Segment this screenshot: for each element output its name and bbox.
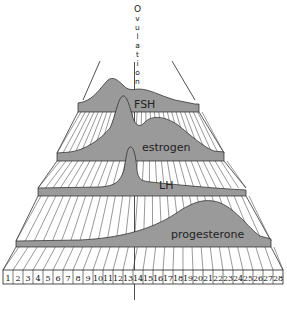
svg-text:19: 19 (183, 274, 193, 283)
svg-text:l: l (136, 32, 138, 41)
svg-text:i: i (136, 59, 138, 68)
svg-text:15: 15 (143, 274, 153, 283)
svg-text:20: 20 (193, 274, 203, 283)
fsh-label: FSH (134, 98, 155, 111)
lh-label: LH (159, 179, 173, 192)
svg-text:v: v (135, 14, 140, 23)
svg-text:12: 12 (113, 274, 123, 283)
svg-text:5: 5 (45, 274, 50, 283)
svg-text:u: u (135, 23, 140, 32)
svg-text:6: 6 (55, 274, 60, 283)
svg-text:1: 1 (5, 274, 10, 283)
svg-text:25: 25 (243, 274, 253, 283)
svg-text:18: 18 (173, 274, 183, 283)
svg-text:11: 11 (103, 274, 113, 283)
svg-text:23: 23 (223, 274, 233, 283)
svg-text:17: 17 (163, 274, 173, 283)
menstrual-cycle-hormone-diagram: FSH estrogen LH progesterone Ovulation 1… (0, 0, 287, 314)
svg-text:21: 21 (203, 274, 213, 283)
ovulation-label: Ovulation (134, 4, 141, 86)
svg-text:22: 22 (213, 274, 223, 283)
svg-text:16: 16 (153, 274, 163, 283)
svg-text:a: a (135, 41, 140, 50)
svg-text:27: 27 (263, 274, 273, 283)
svg-text:26: 26 (253, 274, 263, 283)
svg-text:13: 13 (123, 274, 133, 283)
svg-text:10: 10 (93, 274, 103, 283)
svg-text:O: O (134, 4, 141, 14)
estrogen-label: estrogen (142, 141, 191, 154)
svg-text:9: 9 (85, 274, 90, 283)
svg-text:14: 14 (133, 274, 143, 283)
svg-text:o: o (135, 68, 140, 77)
svg-text:8: 8 (75, 274, 80, 283)
svg-text:7: 7 (65, 274, 70, 283)
progesterone-label: progesterone (171, 228, 245, 241)
svg-text:4: 4 (35, 274, 40, 283)
svg-text:2: 2 (15, 274, 20, 283)
svg-text:28: 28 (273, 274, 283, 283)
funnel-right-top (172, 61, 195, 100)
svg-text:3: 3 (25, 274, 30, 283)
day-scale: 1234567891011121314151617181920212223242… (3, 270, 283, 284)
svg-text:24: 24 (233, 274, 243, 283)
svg-text:n: n (135, 77, 140, 86)
svg-text:t: t (136, 50, 139, 59)
